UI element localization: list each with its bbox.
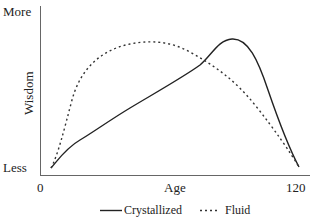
legend-fluid-label: Fluid (225, 203, 250, 217)
legend-crystallized-label: Crystallized (124, 203, 182, 217)
x-tick-120: 120 (286, 180, 306, 195)
y-tick-less: Less (3, 160, 27, 175)
fluid-line (51, 42, 299, 168)
y-tick-more: More (3, 4, 31, 19)
chart: More Less Wisdom 0 Age 120 Crystallized … (0, 0, 313, 224)
y-axis-title: Wisdom (21, 71, 36, 115)
x-axis-title: Age (164, 180, 186, 195)
x-tick-0: 0 (37, 180, 44, 195)
crystallized-line (51, 39, 299, 168)
